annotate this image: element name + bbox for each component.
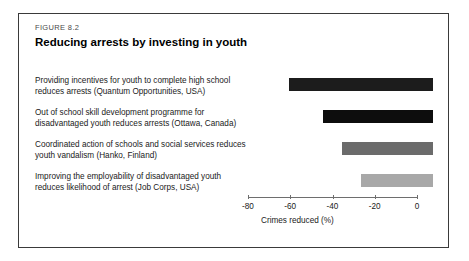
x-axis-tick-label: -60 — [284, 202, 296, 211]
bar-track — [248, 108, 433, 138]
bar-row: Providing incentives for youth to comple… — [19, 76, 450, 106]
x-axis-tick — [333, 195, 334, 199]
x-axis-title: Crimes reduced (%) — [261, 216, 334, 225]
x-axis-tick-label: -40 — [327, 202, 339, 211]
bar-label: Coordinated action of schools and social… — [35, 140, 250, 161]
bar-row: Out of school skill development programm… — [19, 108, 450, 138]
bar-value — [361, 174, 433, 187]
x-axis-tick — [375, 195, 376, 199]
chart-plot-area: Providing incentives for youth to comple… — [19, 14, 450, 249]
bar-track — [248, 76, 433, 106]
bar-track — [248, 140, 433, 170]
x-axis-tick-label: -20 — [369, 202, 381, 211]
bar-label: Improving the employability of disadvant… — [35, 172, 250, 193]
x-axis-tick — [248, 195, 249, 199]
bar-row: Coordinated action of schools and social… — [19, 140, 450, 170]
bar-value — [289, 78, 433, 91]
x-axis-tick — [290, 195, 291, 199]
x-axis-tick-label: -80 — [242, 202, 254, 211]
bar-label: Providing incentives for youth to comple… — [35, 76, 250, 97]
x-axis-tick — [417, 195, 418, 199]
bar-value — [342, 142, 433, 155]
bar-value — [323, 110, 433, 123]
bar-label: Out of school skill development programm… — [35, 108, 250, 129]
x-axis: -80-60-40-200 Crimes reduced (%) — [248, 197, 433, 247]
figure-frame: FIGURE 8.2 Reducing arrests by investing… — [18, 13, 449, 248]
x-axis-tick-label: 0 — [415, 202, 420, 211]
